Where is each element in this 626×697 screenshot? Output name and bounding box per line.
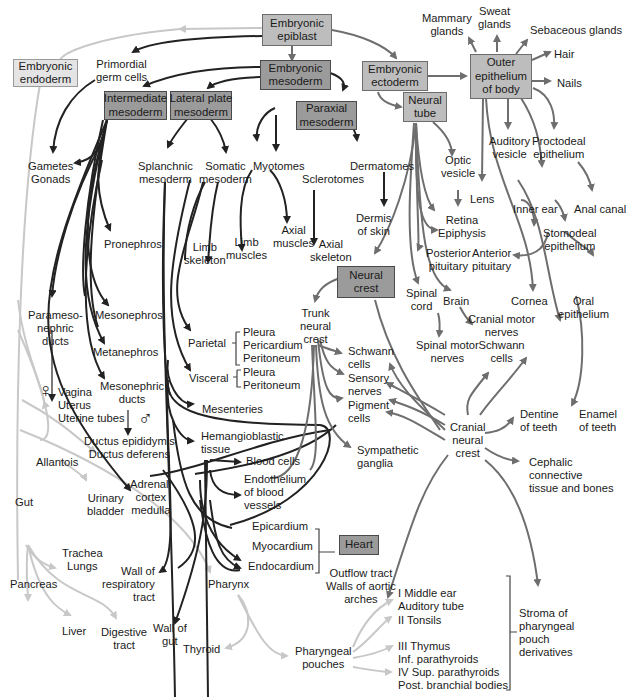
label-pouch-1: I Middle ear Auditory tube [398,587,464,613]
label-ductus: Ductus epididymis Ductus deferens [84,435,175,461]
label-endothelium: Endothelium of blood vessels [244,473,306,512]
label-mesenteries: Mesenteries [202,403,263,416]
label-auditory-vesicle: Auditory vesicle [489,135,530,161]
label-stomodeal-epithelium: Stomodeal epithelium [543,227,597,253]
label-dentine-of-teeth: Dentine of teeth [520,408,559,434]
label-myocardium: Myocardium [252,540,313,553]
label-dermatomes: Dermatomes [350,160,414,173]
label-visceral-list: Pleura Peritoneum [243,366,300,392]
box-lateral-plate-mesoderm: Lateral plate mesoderm [170,91,232,120]
label-schwann-cells: Schwann cells [348,345,394,371]
label-axial-muscles: Axial muscles [273,224,314,250]
label-anterior-pituitary: Anterior pituitary [472,247,511,273]
label-enamel-of-teeth: Enamel of teeth [579,408,617,434]
label-dermis-of-skin: Dermis of skin [356,212,391,238]
box-paraxial-mesoderm: Paraxial mesoderm [296,101,357,130]
label-pronephros: Pronephros [104,238,162,251]
label-limb-skeleton: Limb skeleton [184,241,226,267]
box-embryonic-ectoderm: Embryonic ectoderm [362,61,428,91]
label-primordial-germ-cells: Primordial germ cells [96,58,147,84]
label-mesonephric-ducts: Mesonephric ducts [100,380,164,406]
label-mesonephros: Mesonephros [95,309,163,322]
label-gut: Gut [15,496,33,509]
box-embryonic-endoderm: Embryonic endoderm [13,59,78,87]
box-outer-epithelium-of-body: Outer epithelium of body [470,54,532,99]
label-proctodeal-epithelium: Proctodeal epithelium [532,135,586,161]
label-visceral: Visceral [189,372,229,385]
label-urinary-bladder: Urinary bladder [87,492,124,518]
label-thyroid: Thyroid [183,643,220,656]
box-neural-tube: Neural tube [403,92,447,122]
label-anal-canal: Anal canal [574,203,626,216]
label-spinal-motor-nerves: Spinal motor nerves [416,339,479,365]
label-cornea: Cornea [511,295,548,308]
label-sensory-nerves: Sensory nerves [348,372,389,398]
label-adrenal: Adrenal: cortex medulla [130,478,172,517]
label-spinal-cord: Spinal cord [406,287,437,313]
label-sclerotomes: Sclerotomes [302,173,364,186]
label-myotomes: Myotomes [253,160,305,173]
label-outflow-tract: Outflow tract Walls of aortic arches [326,567,396,606]
male-symbol-icon: ♂ [138,408,153,428]
label-metanephros: Metanephros [93,346,158,359]
label-hemangioblastic-tissue: Hemangioblastic tissue [201,430,284,456]
label-cranial-neural-crest: Cranial neural crest [450,421,485,460]
label-pharynx: Pharynx [208,578,249,591]
box-neural-crest: Neural crest [337,266,395,298]
label-wall-of-gut: Wall of gut [153,622,187,648]
box-embryonic-mesoderm: Embryonic mesoderm [260,60,331,90]
label-splanchnic-mesoderm: Splanchnic mesoderm [138,160,193,186]
label-digestive-tract: Digestive tract [101,626,147,652]
label-parietal: Parietal [188,337,226,350]
label-hair: Hair [554,48,575,61]
female-symbol-icon: ♀ [38,380,53,400]
label-somatic-mesoderm: Somatic mesoderm [199,160,252,186]
box-embryonic-epiblast: Embryonic epiblast [262,14,332,46]
label-cephalic-connective-tissue: Cephalic connective tissue and bones [529,456,614,495]
label-stroma: Stroma of pharyngeal pouch derivatives [519,607,574,659]
label-blood-cells: Blood cells [246,455,300,468]
label-sweat-glands: Sweat glands [478,5,511,31]
label-wall-of-respiratory-tract: Wall of respiratory tract [102,565,155,604]
label-pouch-2: II Tonsils [398,614,441,627]
label-retina-epiphysis: Retina Epiphysis [438,214,486,240]
germ-layer-derivatives-diagram: Embryonic epiblast Embryonic endoderm Em… [0,0,626,697]
label-pigment-cells: Pigment cells [348,399,389,425]
label-sympathetic-ganglia: Sympathetic ganglia [357,444,419,470]
label-trachea-lungs: Trachea Lungs [62,547,103,573]
label-parietal-list: Pleura Pericardium Peritoneum [243,326,303,365]
label-allantois: Allantois [36,456,78,469]
label-axial-skeleton: Axial skeleton [310,238,352,264]
label-pancreas: Pancreas [10,578,57,591]
box-intermediate-mesoderm: Intermediate mesoderm [104,91,167,120]
label-pharyngeal-pouches: Pharyngeal pouches [295,645,352,671]
label-pouch-4: IV Sup. parathyroids Post. branchial bod… [398,666,508,692]
label-liver: Liver [62,625,86,638]
label-brain: Brain [443,295,469,308]
label-mammary-glands: Mammary glands [422,12,472,38]
label-limb-muscles: Limb muscles [226,236,267,262]
label-oral-epithelium: Oral epithelium [558,295,609,321]
box-heart: Heart [339,535,379,555]
label-optic-vesicle: Optic vesicle [441,154,475,180]
label-trunk-neural-crest: Trunk neural crest [300,307,331,346]
label-nails: Nails [557,77,582,90]
label-endocardium: Endocardium [248,560,314,573]
label-pouch-3: III Thymus Inf. parathyroids [398,640,478,666]
label-sebaceous-glands: Sebaceous glands [530,24,622,37]
label-paramesonephric-ducts: Parameso- nephric ducts [28,309,83,348]
label-lens: Lens [470,193,494,206]
label-posterior-pituitary: Posterior pituitary [426,247,471,273]
label-gametes-gonads: Gametes Gonads [28,160,73,186]
label-inner-ear: Inner ear [513,203,558,216]
label-epicardium: Epicardium [252,520,308,533]
